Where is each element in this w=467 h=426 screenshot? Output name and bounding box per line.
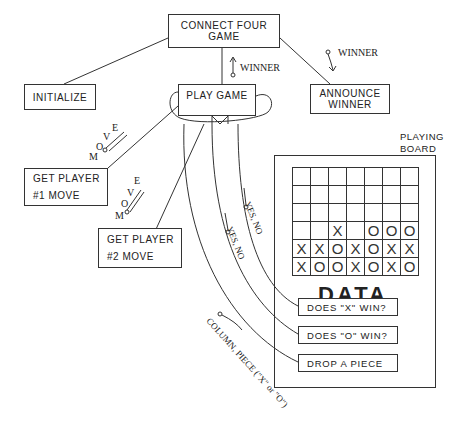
board-cell: X — [311, 240, 329, 258]
board-cell: X — [293, 258, 311, 276]
module-label-line2: #2 MOVE — [107, 251, 154, 262]
board-cell: X — [329, 222, 347, 240]
board-cell — [293, 222, 311, 240]
module-announce-winner: ANNOUNCE WINNER — [310, 84, 390, 114]
board-cell — [365, 204, 383, 222]
board-cell — [311, 222, 329, 240]
board-cell — [329, 204, 347, 222]
board-cell — [365, 186, 383, 204]
playing-board-grid: XOOOXXOXOXXXOOXOXO — [292, 167, 419, 276]
module-get-player-1-move: GET PLAYER #1 MOVE — [24, 168, 108, 206]
data-item-label: DOES "X" WIN? — [307, 302, 386, 313]
board-cell: O — [365, 222, 383, 240]
couple-move2-o: O — [121, 198, 128, 209]
module-get-player-2-move: GET PLAYER #2 MOVE — [98, 228, 182, 268]
board-cell — [347, 168, 365, 186]
module-connect-four-game: CONNECT FOUR GAME — [168, 14, 280, 48]
board-cell — [401, 168, 419, 186]
board-cell: O — [329, 240, 347, 258]
board-cell — [293, 168, 311, 186]
module-label: PLAY GAME — [186, 90, 247, 101]
board-cell — [383, 186, 401, 204]
module-label: CONNECT FOUR GAME — [169, 20, 279, 42]
board-cell — [329, 186, 347, 204]
board-cell — [329, 168, 347, 186]
board-cell — [311, 204, 329, 222]
couple-move1-o: O — [96, 141, 103, 152]
couple-move1-v: V — [103, 131, 110, 142]
board-cell — [347, 186, 365, 204]
module-label: INITIALIZE — [33, 92, 87, 103]
board-cell — [401, 186, 419, 204]
board-cell — [311, 168, 329, 186]
data-item-label: DOES "O" WIN? — [307, 330, 388, 341]
board-cell: O — [365, 258, 383, 276]
board-cell: O — [311, 258, 329, 276]
module-play-game: PLAY GAME — [178, 84, 256, 116]
module-label-line1: GET PLAYER — [107, 234, 174, 245]
playing-board-label-line1: PLAYING — [400, 131, 444, 142]
module-label-line2: #1 MOVE — [33, 190, 80, 201]
data-item-does-x-win: DOES "X" WIN? — [298, 298, 398, 316]
board-cell: X — [383, 240, 401, 258]
couple-move1-e: E — [112, 122, 118, 133]
couple-winner-up: WINNER — [240, 62, 280, 73]
board-cell — [311, 186, 329, 204]
module-initialize: INITIALIZE — [24, 84, 96, 110]
board-cell: O — [329, 258, 347, 276]
board-cell — [347, 204, 365, 222]
board-cell — [293, 204, 311, 222]
data-item-does-o-win: DOES "O" WIN? — [298, 326, 398, 344]
board-cell — [401, 204, 419, 222]
board-cell — [365, 168, 383, 186]
board-cell: X — [293, 240, 311, 258]
data-item-drop-a-piece: DROP A PIECE — [298, 354, 398, 372]
board-cell: O — [401, 258, 419, 276]
board-cell — [383, 168, 401, 186]
board-cell — [293, 186, 311, 204]
board-cell — [347, 222, 365, 240]
couple-move1-m: M — [89, 151, 98, 162]
couple-move2-m: M — [115, 210, 124, 221]
module-label-line2: WINNER — [328, 99, 372, 110]
board-cell: X — [347, 258, 365, 276]
board-cell: O — [401, 222, 419, 240]
couple-winner-down: WINNER — [338, 47, 378, 58]
board-cell — [383, 204, 401, 222]
board-cell: X — [383, 258, 401, 276]
module-label-line1: GET PLAYER — [33, 173, 100, 184]
data-item-label: DROP A PIECE — [307, 358, 383, 369]
module-label-line1: ANNOUNCE — [319, 88, 380, 99]
board-cell: X — [401, 240, 419, 258]
couple-move2-e: E — [134, 175, 140, 186]
couple-move2-v: V — [127, 187, 134, 198]
board-cell: X — [347, 240, 365, 258]
board-cell: O — [365, 240, 383, 258]
board-cell: O — [383, 222, 401, 240]
playing-board-label-line2: BOARD — [400, 143, 436, 154]
